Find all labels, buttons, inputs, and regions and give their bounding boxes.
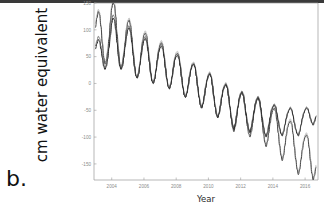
figure-panel: b. cm water equivalent 150100500-50-100-… — [0, 0, 324, 206]
x-tick-label: 2014 — [268, 184, 279, 189]
x-tick-label: 2006 — [139, 184, 150, 189]
x-tick-label: 2008 — [171, 184, 182, 189]
x-tick-label: 2004 — [107, 184, 118, 189]
y-tick-label: 150 — [83, 1, 91, 6]
x-tick-label: 2016 — [300, 184, 311, 189]
y-tick-label: -150 — [82, 162, 92, 167]
y-tick-label: 50 — [86, 54, 92, 59]
y-tick-label: -50 — [84, 108, 91, 113]
x-tick-label: 2010 — [203, 184, 214, 189]
x-tick-label: 2012 — [236, 184, 247, 189]
x-axis-title: Year — [196, 194, 216, 204]
line-chart: 150100500-50-100-150 2004200620082010201… — [0, 0, 324, 206]
y-tick-label: -100 — [82, 135, 92, 140]
y-tick-label: 0 — [88, 81, 91, 86]
y-tick-label: 100 — [83, 28, 91, 33]
